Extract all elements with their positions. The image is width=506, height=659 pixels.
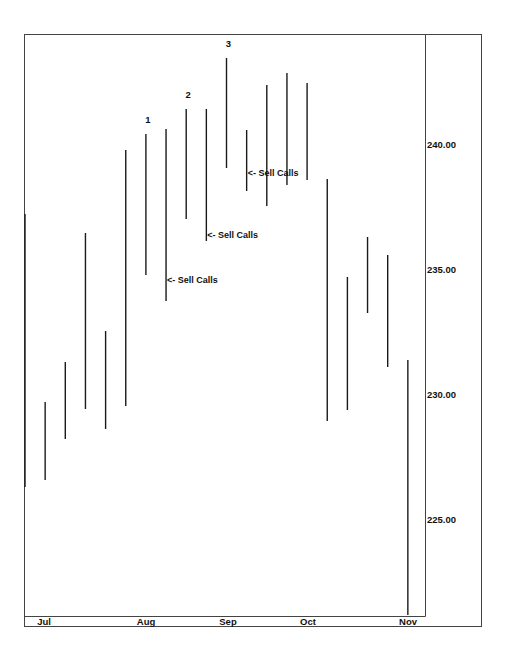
chart-frame: [25, 35, 482, 627]
x-tick-label: Oct: [300, 616, 317, 627]
x-tick-label: Nov: [399, 616, 418, 627]
sell-calls-annotation: <- Sell Calls: [207, 230, 258, 240]
sell-calls-annotation: <- Sell Calls: [248, 168, 299, 178]
y-axis-labels: 240.00235.00230.00225.00: [427, 139, 456, 525]
annotations: 123<- Sell Calls<- Sell Calls<- Sell Cal…: [145, 38, 298, 285]
peak-number-label: 1: [145, 114, 151, 125]
x-tick-label: Jul: [37, 616, 51, 627]
x-tick-label: Sep: [219, 616, 237, 627]
price-chart: 240.00235.00230.00225.00 JulAugSepOctNov…: [0, 0, 506, 659]
y-tick-label: 235.00: [427, 264, 456, 275]
y-tick-label: 240.00: [427, 139, 456, 150]
x-axis-labels: JulAugSepOctNov: [37, 616, 418, 627]
x-tick-label: Aug: [137, 616, 156, 627]
y-tick-label: 230.00: [427, 389, 456, 400]
y-tick-label: 225.00: [427, 514, 456, 525]
price-bars: [25, 58, 408, 615]
peak-number-label: 2: [186, 89, 191, 100]
peak-number-label: 3: [226, 38, 231, 49]
sell-calls-annotation: <- Sell Calls: [167, 275, 218, 285]
